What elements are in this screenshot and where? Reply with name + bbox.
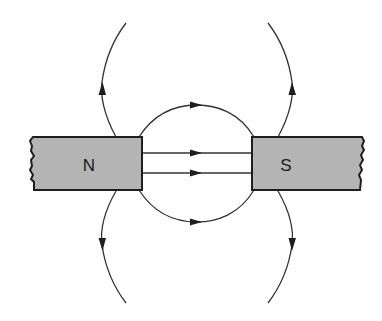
- magnet-north: N: [30, 137, 142, 190]
- field-line-outer-top-right: [268, 23, 292, 137]
- field-line-outer-top-left: [102, 23, 126, 137]
- field-line-gap-arc-bottom: [139, 190, 254, 222]
- field-line-outer-bottom-right: [268, 191, 292, 303]
- arrow-up-icon: [99, 82, 107, 95]
- arrow-down-icon: [99, 238, 107, 251]
- field-line-outer-bottom-left: [102, 191, 126, 303]
- magnet-south: S: [252, 137, 364, 190]
- magnet-south-label: S: [280, 156, 291, 175]
- arrow-right-icon: [190, 102, 202, 109]
- arrow-down-icon: [289, 238, 297, 251]
- arrow-right-icon: [190, 219, 202, 226]
- field-line-gap-arc-top: [139, 105, 254, 137]
- magnetic-field-diagram: N S: [0, 0, 382, 321]
- magnet-north-label: N: [83, 156, 95, 175]
- gap-field-lines: [139, 105, 254, 222]
- arrow-up-icon: [289, 82, 297, 95]
- arrow-right-icon: [190, 170, 202, 177]
- magnet-south-body: [252, 137, 364, 190]
- arrow-right-icon: [190, 150, 202, 157]
